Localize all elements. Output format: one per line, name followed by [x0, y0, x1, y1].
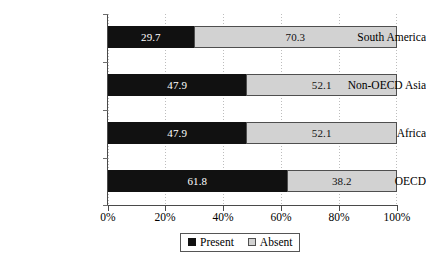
legend-swatch-present-icon [188, 238, 196, 246]
x-axis-line [107, 205, 398, 206]
bar-value-absent-south-america: 70.3 [286, 32, 306, 43]
legend-item-absent[interactable]: Absent [248, 236, 293, 248]
bar-segment-present-africa: 47.9 [108, 122, 246, 144]
legend-item-present[interactable]: Present [188, 236, 234, 248]
bar-segment-present-non-oecd-asia: 47.9 [108, 74, 246, 96]
bar-segment-present-south-america: 29.7 [108, 26, 194, 48]
x-axis-label-20: 20% [142, 211, 188, 223]
x-axis-label-60: 60% [258, 211, 304, 223]
bar-value-present-south-america: 29.7 [141, 32, 161, 43]
bar-segment-present-oecd: 61.8 [108, 170, 287, 192]
y-axis-tick-0 [103, 14, 108, 15]
legend-label-absent: Absent [260, 236, 293, 248]
y-axis-tick-3 [103, 158, 108, 159]
chart-legend: Present Absent [180, 233, 300, 252]
x-axis-label-80: 80% [316, 211, 362, 223]
legend-label-present: Present [200, 236, 234, 248]
stacked-bar-chart: 29.7 70.3 47.9 52.1 47.9 52.1 [0, 0, 426, 262]
y-axis-tick-1 [103, 62, 108, 63]
x-axis-label-100: 100% [374, 211, 420, 223]
legend-swatch-absent-icon [248, 238, 256, 246]
y-axis-tick-2 [103, 110, 108, 111]
x-axis-label-0: 0% [85, 211, 131, 223]
category-label-south-america: South America [326, 31, 426, 43]
bar-value-present-africa: 47.9 [167, 128, 187, 139]
category-label-non-oecd-asia: Non-OECD Asia [326, 79, 426, 91]
bar-value-present-non-oecd-asia: 47.9 [167, 80, 187, 91]
bar-value-present-oecd: 61.8 [187, 176, 207, 187]
category-label-africa: Africa [326, 127, 426, 139]
x-axis-label-40: 40% [200, 211, 246, 223]
category-label-oecd: OECD [326, 175, 426, 187]
